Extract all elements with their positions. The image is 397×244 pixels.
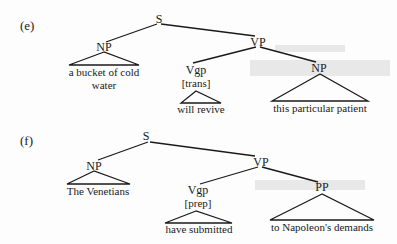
- vgp-triangle: [165, 211, 232, 223]
- node-vp: VP: [253, 155, 269, 169]
- np-text-line-2: water: [92, 79, 117, 91]
- branch-lines: [106, 24, 316, 63]
- branch-lines: [98, 142, 318, 184]
- node-complement-pp: PP: [315, 180, 329, 194]
- tree-f: (f) S NP The Venetians VP Vgp [prep] hav…: [20, 129, 374, 235]
- np-text-line-1: The Venetians: [67, 185, 129, 197]
- node-s: S: [143, 129, 150, 143]
- complement-text: to Napoleon's demands: [271, 221, 373, 233]
- example-label-e: (e): [20, 18, 34, 33]
- complement-triangle: [272, 74, 368, 101]
- complement-triangle: [270, 194, 374, 220]
- node-vp: VP: [250, 35, 266, 49]
- syntax-tree-figure: (e) S NP a bucket of cold water VP Vgp […: [0, 0, 397, 244]
- node-vgp: Vgp: [186, 63, 207, 77]
- vgp-feature: [prep]: [185, 197, 212, 209]
- np-triangle: [67, 171, 130, 184]
- np-text-line-1: a bucket of cold: [69, 66, 140, 78]
- vgp-feature: [trans]: [182, 77, 211, 89]
- vgp-text: will revive: [177, 103, 224, 115]
- example-label-f: (f): [20, 133, 33, 148]
- vgp-text: have submitted: [166, 223, 233, 235]
- node-complement-np: NP: [311, 61, 327, 75]
- tree-e: (e) S NP a bucket of cold water VP Vgp […: [20, 12, 368, 115]
- complement-text: this particular patient: [273, 102, 366, 114]
- node-vgp: Vgp: [188, 183, 209, 197]
- vgp-triangle: [181, 91, 221, 103]
